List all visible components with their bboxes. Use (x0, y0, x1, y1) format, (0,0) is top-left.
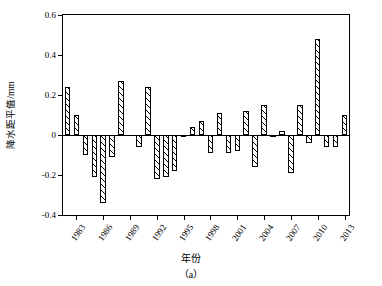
bar (217, 113, 223, 135)
x-axis-tick (237, 215, 238, 220)
bar-series (63, 15, 349, 215)
bar (226, 135, 232, 153)
x-axis-tick (318, 215, 319, 220)
bar (208, 135, 214, 153)
x-axis-tick-label: 1989 (124, 223, 142, 243)
y-axis-tick (58, 215, 63, 216)
y-axis-tick-label: 0.4 (45, 51, 56, 60)
bar (306, 135, 312, 143)
bar (83, 135, 89, 155)
bar (118, 81, 124, 135)
bar (279, 131, 285, 135)
bar (190, 127, 196, 135)
y-axis-tick-label: -0.4 (42, 211, 56, 220)
y-axis-tick (58, 55, 63, 56)
y-axis-title: 降水距平值/mm (6, 81, 16, 148)
x-axis-title: 年份 (0, 250, 382, 265)
x-axis-tick-label: 1995 (177, 223, 195, 243)
bar (297, 105, 303, 135)
chart-figure: 降水距平值/mm -0.4-0.200.20.40.61983198619891… (0, 0, 382, 286)
bar (109, 135, 115, 157)
y-axis-tick-label: -0.2 (42, 171, 56, 180)
x-axis-tick (184, 215, 185, 220)
bar (252, 135, 258, 167)
bar (235, 135, 241, 151)
x-axis-tick (103, 215, 104, 220)
x-axis-tick-label: 2004 (258, 223, 276, 243)
bar (270, 135, 276, 137)
bar (154, 135, 160, 179)
bar (163, 135, 169, 177)
bar (315, 39, 321, 135)
plot-area: -0.4-0.200.20.40.61983198619891992199519… (62, 14, 350, 216)
bar (199, 121, 205, 135)
y-axis-tick-label: 0 (52, 131, 57, 140)
x-axis-tick-label: 1992 (151, 223, 169, 243)
x-axis-tick-label: 2013 (338, 223, 356, 243)
bar (342, 115, 348, 135)
bar (145, 87, 151, 135)
bar (261, 105, 267, 135)
x-axis-tick-label: 2010 (311, 223, 329, 243)
y-axis-tick (58, 135, 63, 136)
x-axis-tick-label: 1998 (204, 223, 222, 243)
y-axis-tick (58, 175, 63, 176)
y-axis-tick (58, 15, 63, 16)
x-axis-tick (76, 215, 77, 220)
y-axis-tick (58, 95, 63, 96)
bar (181, 135, 187, 137)
y-axis-tick-label: 0.2 (45, 91, 56, 100)
x-axis-tick (291, 215, 292, 220)
bar (100, 135, 106, 203)
x-axis-tick (210, 215, 211, 220)
bar (288, 135, 294, 173)
x-axis-tick (264, 215, 265, 220)
bar (92, 135, 98, 177)
x-axis-tick (130, 215, 131, 220)
y-axis-tick-label: 0.6 (45, 11, 56, 20)
bar (136, 135, 142, 147)
x-axis-tick (157, 215, 158, 220)
panel-label: （a） (0, 266, 382, 281)
bar (74, 115, 80, 135)
x-axis-tick-label: 2007 (285, 223, 303, 243)
bar (172, 135, 178, 171)
x-axis-tick-label: 1983 (70, 223, 88, 243)
x-axis-tick (345, 215, 346, 220)
x-axis-tick-label: 1986 (97, 223, 115, 243)
bar (243, 111, 249, 135)
x-axis-tick-label: 2001 (231, 223, 249, 243)
bar (333, 135, 339, 147)
bar (65, 87, 71, 135)
bar (324, 135, 330, 147)
